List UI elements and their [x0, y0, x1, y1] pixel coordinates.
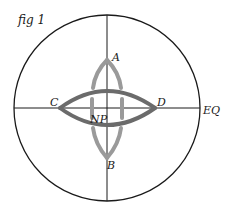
label-d: D [156, 96, 166, 109]
label-c: C [50, 96, 59, 109]
figure-caption: fig 1 [17, 13, 45, 27]
label-b: B [106, 159, 115, 172]
label-eq: EQ [202, 104, 220, 117]
label-a: A [111, 51, 120, 64]
globe-diagram: fig 1 A C D NP B EQ [0, 0, 232, 213]
label-np: NP [89, 113, 108, 126]
